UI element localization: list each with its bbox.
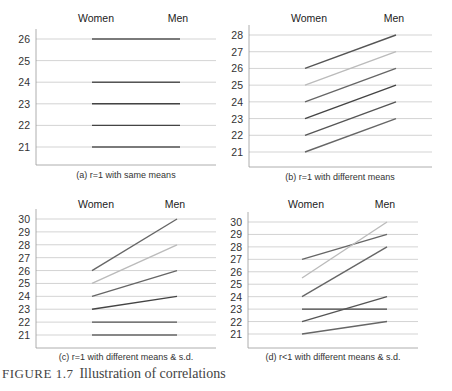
y-tick-label: 26 <box>18 33 30 45</box>
panel-c-chart: 21222324252627282930WomenMen(c) r=1 with… <box>18 198 216 362</box>
y-tick-label: 21 <box>18 329 30 341</box>
y-tick-label: 27 <box>18 252 30 264</box>
figure-caption: FIGURE 1.7Illustration of correlations <box>2 366 226 382</box>
y-tick-label: 30 <box>230 216 242 228</box>
panel-caption: (b) r=1 with different means <box>285 172 395 182</box>
y-tick-label: 24 <box>231 96 243 108</box>
figure-label: FIGURE 1.7 <box>2 366 73 381</box>
y-tick-label: 22 <box>18 119 30 131</box>
y-tick-label: 28 <box>230 241 242 253</box>
y-tick-label: 24 <box>18 76 30 88</box>
y-tick-label: 23 <box>230 303 242 315</box>
data-line <box>92 296 177 309</box>
column-header-men: Men <box>165 198 186 210</box>
data-line <box>302 222 387 278</box>
y-tick-label: 21 <box>18 141 30 153</box>
column-header-women: Women <box>291 12 327 24</box>
panel-caption: (a) r=1 with same means <box>76 170 176 180</box>
y-tick-label: 23 <box>18 98 30 110</box>
y-tick-label: 29 <box>18 226 30 238</box>
panel-caption: (d) r<1 with different means & s.d. <box>265 352 400 362</box>
y-tick-label: 25 <box>231 79 243 91</box>
y-tick-label: 25 <box>18 55 30 67</box>
y-tick-label: 23 <box>231 113 243 125</box>
y-tick-label: 21 <box>230 328 242 340</box>
panel-d-chart: 21222324252627282930WomenMen(d) r<1 with… <box>230 198 418 362</box>
y-tick-label: 25 <box>18 277 30 289</box>
y-tick-label: 22 <box>230 316 242 328</box>
y-tick-label: 27 <box>230 253 242 265</box>
column-header-men: Men <box>375 198 396 210</box>
y-tick-label: 21 <box>231 146 243 158</box>
column-header-women: Women <box>288 198 324 210</box>
y-tick-label: 22 <box>231 129 243 141</box>
panel-a-chart: 212223242526WomenMen(a) r=1 with same me… <box>18 12 216 180</box>
y-tick-label: 29 <box>230 228 242 240</box>
y-tick-label: 23 <box>18 303 30 315</box>
y-tick-label: 24 <box>18 290 30 302</box>
data-line <box>92 245 177 284</box>
figure-title: Illustration of correlations <box>79 366 225 381</box>
y-tick-label: 27 <box>231 46 243 58</box>
panel-b-chart: 2122232425262728WomenMen(b) r=1 with dif… <box>231 12 432 182</box>
column-header-men: Men <box>168 12 189 24</box>
column-header-women: Women <box>78 12 114 24</box>
column-header-men: Men <box>384 12 405 24</box>
y-tick-label: 26 <box>230 266 242 278</box>
y-tick-label: 25 <box>230 278 242 290</box>
y-tick-label: 26 <box>18 265 30 277</box>
y-tick-label: 26 <box>231 62 243 74</box>
y-tick-label: 30 <box>18 213 30 225</box>
data-line <box>302 322 387 334</box>
y-tick-label: 24 <box>230 291 242 303</box>
y-tick-label: 28 <box>18 239 30 251</box>
y-tick-label: 22 <box>18 316 30 328</box>
panel-caption: (c) r=1 with different means & s.d. <box>59 352 194 362</box>
correlation-figure: 212223242526WomenMen(a) r=1 with same me… <box>0 0 452 391</box>
y-tick-label: 28 <box>231 29 243 41</box>
column-header-women: Women <box>78 198 114 210</box>
